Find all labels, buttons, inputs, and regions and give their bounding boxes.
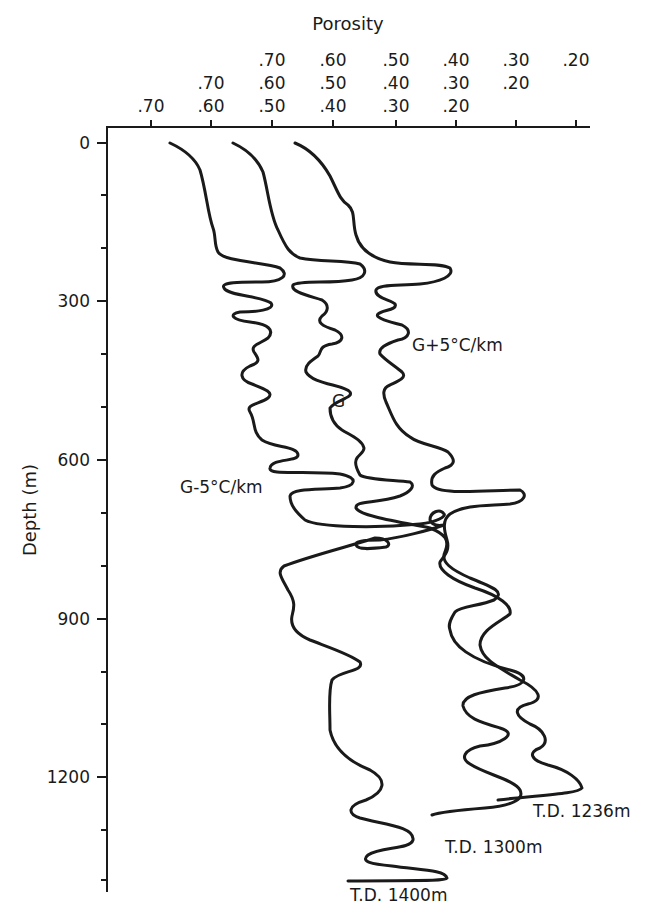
x-tick-row-top: .70 .60 .50 .40 .30 .20	[258, 50, 589, 70]
x-tick-label: .50	[319, 73, 346, 93]
curve-g	[233, 143, 524, 815]
x-tick-row-bottom: .70 .60 .50 .40 .30 .20	[137, 96, 469, 116]
x-tick-label: .40	[382, 73, 409, 93]
x-tick-label: .20	[442, 96, 469, 116]
label-td-1400: T.D. 1400m	[349, 885, 448, 905]
x-tick-row-middle: .70 .60 .50 .40 .30 .20	[197, 73, 529, 93]
x-tick-label: .40	[319, 96, 346, 116]
curve-g-plus-5	[295, 143, 582, 800]
x-tick-label: .40	[442, 50, 469, 70]
x-tick-label: .30	[442, 73, 469, 93]
y-axis	[97, 127, 107, 892]
x-tick-label: .60	[197, 96, 224, 116]
porosity-depth-chart: Porosity .70 .60 .50 .40 .30 .20 .70 .60…	[0, 0, 646, 924]
x-tick-label: .50	[258, 96, 285, 116]
x-tick-label: .20	[502, 73, 529, 93]
y-tick-label: 900	[58, 609, 90, 629]
label-td-1300: T.D. 1300m	[444, 837, 543, 857]
x-tick-label: .50	[382, 50, 409, 70]
label-td-1236: T.D. 1236m	[532, 801, 631, 821]
x-tick-label: .30	[502, 50, 529, 70]
y-tick-label: 1200	[47, 767, 90, 787]
x-tick-label: .30	[382, 96, 409, 116]
x-tick-label: .20	[562, 50, 589, 70]
curve-g-minus-5	[170, 143, 447, 881]
label-g: G	[332, 391, 345, 411]
x-tick-label: .60	[258, 73, 285, 93]
y-tick-label: 0	[79, 133, 90, 153]
x-tick-label: .70	[258, 50, 285, 70]
x-tick-label: .60	[319, 50, 346, 70]
y-tick-label: 600	[58, 450, 90, 470]
x-tick-label: .70	[197, 73, 224, 93]
label-g-minus-5: G-5°C/km	[180, 477, 263, 497]
x-tick-label: .70	[137, 96, 164, 116]
x-axis-title: Porosity	[312, 13, 384, 34]
y-tick-label: 300	[58, 291, 90, 311]
label-g-plus-5: G+5°C/km	[412, 335, 503, 355]
x-axis	[106, 120, 590, 127]
y-axis-title: Depth (m)	[19, 464, 40, 556]
